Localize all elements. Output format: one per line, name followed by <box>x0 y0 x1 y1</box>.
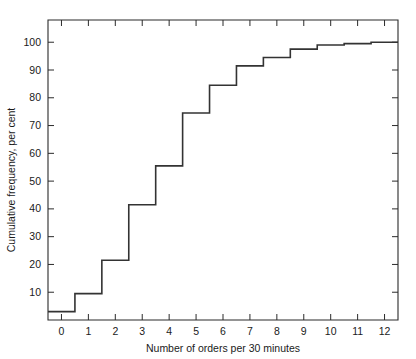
y-tick-label: 10 <box>29 286 41 298</box>
y-tick-label: 100 <box>23 36 41 48</box>
y-tick-label: 40 <box>29 202 41 214</box>
x-tick-label: 4 <box>166 325 172 337</box>
x-tick-label: 8 <box>274 325 280 337</box>
x-tick-label: 9 <box>301 325 307 337</box>
x-tick-label: 0 <box>59 325 65 337</box>
y-axis-title: Cumulative frequency, per cent <box>5 108 17 253</box>
y-tick-label: 60 <box>29 147 41 159</box>
x-tick-label: 2 <box>112 325 118 337</box>
x-tick-label: 11 <box>352 325 363 337</box>
chart-background <box>0 0 416 359</box>
x-tick-label: 6 <box>220 325 226 337</box>
y-tick-label: 50 <box>29 175 41 187</box>
x-tick-label: 7 <box>247 325 253 337</box>
x-tick-label: 1 <box>85 325 91 337</box>
x-tick-label: 5 <box>193 325 199 337</box>
y-tick-label: 80 <box>29 91 41 103</box>
cumulative-frequency-chart: 0123456789101112 102030405060708090100 N… <box>0 0 416 359</box>
x-tick-label: 3 <box>139 325 145 337</box>
y-tick-label: 20 <box>29 258 41 270</box>
x-axis-title: Number of orders per 30 minutes <box>146 342 300 354</box>
x-tick-label: 12 <box>379 325 391 337</box>
x-tick-label: 10 <box>325 325 337 337</box>
chart-figure: 0123456789101112 102030405060708090100 N… <box>0 0 416 359</box>
y-tick-label: 70 <box>29 119 41 131</box>
y-tick-label: 90 <box>29 64 41 76</box>
y-tick-label: 30 <box>29 230 41 242</box>
